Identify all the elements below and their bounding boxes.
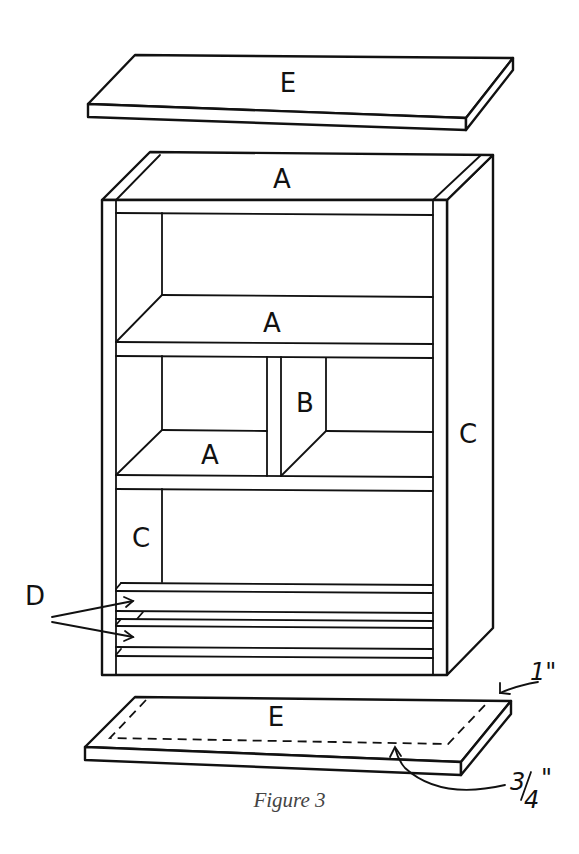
dim-overhang-1in: 1" [530,658,556,686]
right-side-panel [447,155,493,675]
label-top-board-e: E [280,68,296,98]
dimension-overhang: 1" [500,658,556,694]
label-divider-b: B [296,388,314,418]
cabinet: A A B A C [102,152,493,675]
top-board-e: E [88,55,513,130]
label-rails-d: D [25,581,45,611]
label-inner-side-c: C [132,523,150,553]
top-panel [102,152,493,200]
figure-caption: Figure 3 [0,788,579,813]
label-right-side-c: C [459,419,477,449]
label-top-panel-a: A [273,164,291,194]
bookcase-diagram: E A A B A [0,0,579,854]
label-middle-shelf-a: A [263,308,281,338]
bottom-board-e: E [85,697,511,775]
label-lower-left-shelf-a: A [201,440,219,470]
label-bottom-board-e: E [268,702,284,732]
